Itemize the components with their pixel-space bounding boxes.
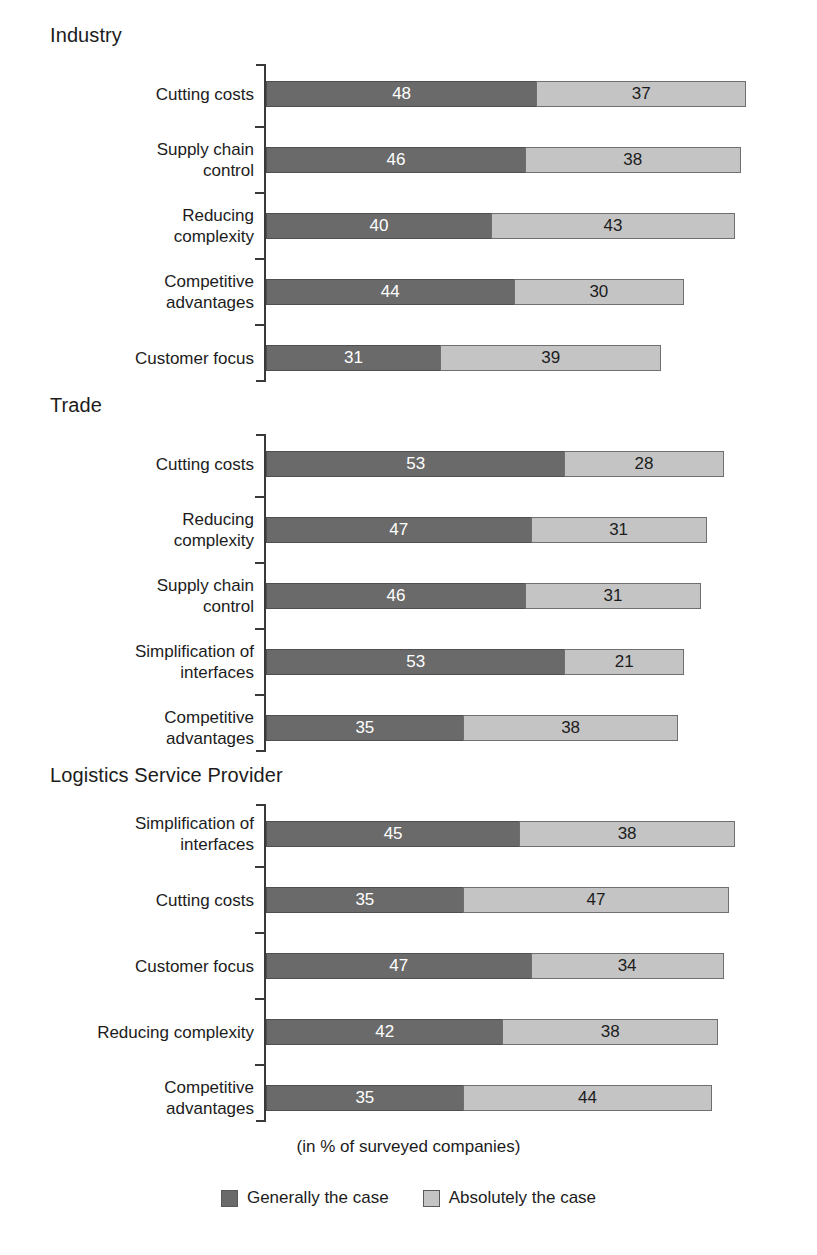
category-label: Cutting costs [14,454,254,475]
bar-segment-generally: 35 [266,715,464,741]
bar-segment-absolutely: 31 [525,583,701,609]
category-label: Competitive advantages [14,271,254,313]
panel-title: Trade [50,394,102,417]
axis-cap-bottom [256,750,266,752]
plot-area: Cutting costs5328Reducing complexity4731… [0,434,817,764]
legend-label-generally: Generally the case [247,1188,389,1208]
bar-segment-generally: 47 [266,517,532,543]
bar-segment-absolutely: 38 [463,715,679,741]
axis-tick [255,496,266,498]
chart-row: Cutting costs4837 [0,80,817,108]
category-label: Supply chain control [14,575,254,617]
chart-row: Competitive advantages4430 [0,278,817,306]
chart-row: Reducing complexity4238 [0,1018,817,1046]
bar-segment-absolutely: 43 [491,213,735,239]
category-label: Reducing complexity [14,1022,254,1043]
category-label: Competitive advantages [14,707,254,749]
category-label: Supply chain control [14,139,254,181]
category-label: Customer focus [14,348,254,369]
stacked-bar: 4734 [266,953,724,979]
chart-row: Customer focus3139 [0,344,817,372]
bar-segment-absolutely: 34 [531,953,724,979]
bar-segment-absolutely: 31 [531,517,707,543]
chart-row: Cutting costs3547 [0,886,817,914]
bar-segment-generally: 46 [266,147,526,173]
stacked-bar: 4043 [266,213,735,239]
stacked-bar: 5328 [266,451,724,477]
axis-tick [255,126,266,128]
axis-tick [255,628,266,630]
bar-segment-absolutely: 44 [463,1085,713,1111]
axis-cap-top [256,64,266,66]
axis-tick [255,562,266,564]
axis-tick [255,192,266,194]
bar-segment-absolutely: 28 [564,451,723,477]
axis-note: (in % of surveyed companies) [0,1137,817,1157]
legend-swatch-icon-generally [221,1190,238,1207]
bar-segment-generally: 46 [266,583,526,609]
bar-segment-generally: 35 [266,887,464,913]
bar-segment-generally: 53 [266,451,565,477]
chart-row: Cutting costs5328 [0,450,817,478]
plot-area: Cutting costs4837Supply chain control463… [0,64,817,394]
axis-tick [255,866,266,868]
category-label: Reducing complexity [14,509,254,551]
category-label: Simplification of interfaces [14,641,254,683]
stacked-bar: 4631 [266,583,701,609]
bar-segment-absolutely: 39 [440,345,661,371]
chart-legend: Generally the case Absolutely the case [0,1188,817,1208]
stacked-bar: 4731 [266,517,707,543]
chart-row: Simplification of interfaces4538 [0,820,817,848]
panel-title: Industry [50,24,122,47]
stacked-bar: 3139 [266,345,662,371]
chart-row: Competitive advantages3544 [0,1084,817,1112]
bar-segment-generally: 40 [266,213,492,239]
stacked-bar: 5321 [266,649,684,675]
chart-row: Simplification of interfaces5321 [0,648,817,676]
bar-segment-absolutely: 38 [525,147,741,173]
axis-tick [255,258,266,260]
axis-tick [255,1064,266,1066]
chart-row: Supply chain control4638 [0,146,817,174]
bar-segment-generally: 35 [266,1085,464,1111]
chart-page: IndustryCutting costs4837Supply chain co… [0,0,817,1255]
bar-segment-generally: 53 [266,649,565,675]
panel-title: Logistics Service Provider [50,764,283,787]
axis-cap-top [256,434,266,436]
axis-tick [255,998,266,1000]
chart-row: Competitive advantages3538 [0,714,817,742]
category-label: Competitive advantages [14,1077,254,1119]
stacked-bar: 4538 [266,821,735,847]
chart-row: Supply chain control4631 [0,582,817,610]
bar-segment-generally: 31 [266,345,441,371]
bar-segment-absolutely: 38 [502,1019,718,1045]
bar-segment-absolutely: 37 [536,81,746,107]
axis-cap-bottom [256,380,266,382]
bar-segment-absolutely: 30 [514,279,685,305]
stacked-bar: 4238 [266,1019,718,1045]
stacked-bar: 3547 [266,887,729,913]
legend-swatch-icon-absolutely [423,1190,440,1207]
category-label: Cutting costs [14,890,254,911]
plot-area: Simplification of interfaces4538Cutting … [0,804,817,1134]
stacked-bar: 4837 [266,81,746,107]
axis-tick [255,324,266,326]
bar-segment-absolutely: 47 [463,887,730,913]
stacked-bar: 4430 [266,279,684,305]
category-label: Cutting costs [14,84,254,105]
bar-segment-generally: 42 [266,1019,503,1045]
stacked-bar: 4638 [266,147,741,173]
category-label: Simplification of interfaces [14,813,254,855]
axis-cap-bottom [256,1120,266,1122]
category-label: Customer focus [14,956,254,977]
chart-row: Reducing complexity4731 [0,516,817,544]
stacked-bar: 3544 [266,1085,712,1111]
bar-segment-generally: 47 [266,953,532,979]
legend-item-generally: Generally the case [221,1188,389,1208]
axis-tick [255,694,266,696]
chart-row: Customer focus4734 [0,952,817,980]
axis-tick [255,932,266,934]
bar-segment-generally: 45 [266,821,520,847]
legend-label-absolutely: Absolutely the case [449,1188,596,1208]
bar-segment-generally: 48 [266,81,537,107]
